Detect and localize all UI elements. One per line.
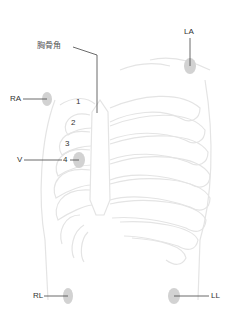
intercostal-2: 2: [71, 119, 75, 127]
intercostal-1: 1: [76, 98, 80, 106]
label-ra: RA: [10, 95, 21, 103]
intercostal-4: 4: [63, 156, 67, 164]
ribcage-illustration: [0, 0, 239, 331]
intercostal-3: 3: [65, 140, 69, 148]
label-la: LA: [184, 28, 194, 36]
label-v: V: [17, 156, 22, 164]
sternal-angle-label: 胸骨角: [37, 42, 61, 50]
label-ll: LL: [211, 292, 220, 300]
label-rl: RL: [33, 292, 43, 300]
ecg-placement-diagram: 胸骨角 RA LA V RL LL 1 2 3 4: [0, 0, 239, 331]
